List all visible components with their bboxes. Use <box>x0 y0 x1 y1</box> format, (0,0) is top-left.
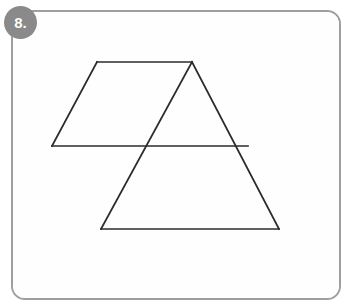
card-surface <box>13 12 339 298</box>
question-number-badge: 8. <box>4 6 37 39</box>
question-card <box>11 10 341 300</box>
question-number-label: 8. <box>14 15 27 30</box>
